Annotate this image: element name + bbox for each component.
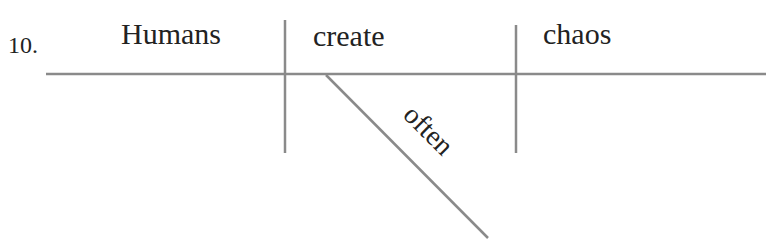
modifier-slant-line <box>326 75 488 238</box>
exercise-number: 10. <box>8 33 38 57</box>
verb-word: create <box>313 21 385 51</box>
subject-word: Humans <box>121 19 221 49</box>
object-word: chaos <box>543 19 611 49</box>
